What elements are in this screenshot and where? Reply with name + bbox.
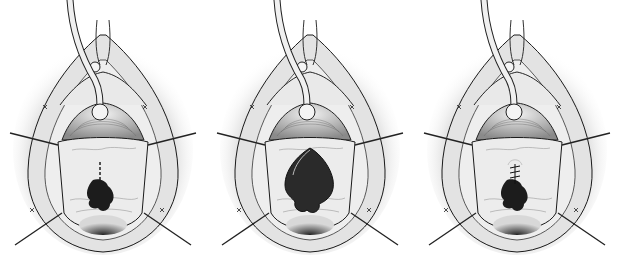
posterior-depth	[79, 215, 127, 235]
panel-3	[414, 0, 620, 265]
posterior-depth	[286, 215, 334, 235]
surgical-illustration	[207, 0, 413, 265]
posterior-depth	[493, 215, 541, 235]
surgical-illustration	[0, 0, 206, 265]
urethral-meatus	[506, 104, 522, 120]
urethral-meatus	[92, 104, 108, 120]
urethral-meatus	[299, 104, 315, 120]
surgical-illustration	[414, 0, 620, 265]
panel-2	[207, 0, 413, 265]
panel-1	[0, 0, 206, 265]
